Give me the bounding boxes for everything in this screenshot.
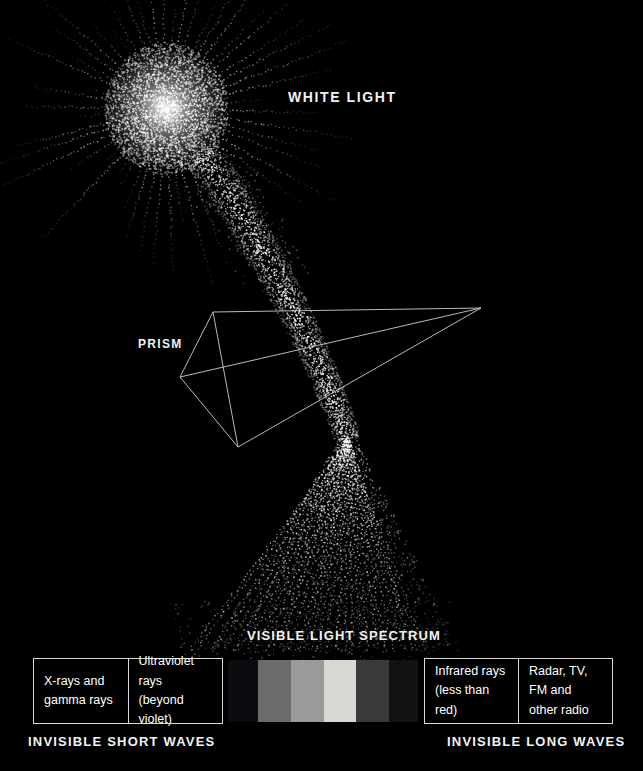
- spectrum-band-yellow: [324, 660, 357, 722]
- box-xray-gamma-label: X-rays and gamma rays: [34, 672, 123, 711]
- spectrum-band-red: [389, 660, 418, 722]
- prism-label: PRISM: [138, 337, 183, 351]
- box-radio-label: Radar, TV, FM and other radio: [519, 662, 599, 720]
- spectrum-band-blue: [258, 660, 291, 722]
- short-wave-box-group: X-rays and gamma rays Ultraviolet rays (…: [33, 658, 223, 724]
- invisible-short-waves-caption: INVISIBLE SHORT WAVES: [28, 734, 215, 749]
- visible-spectrum-strip: [228, 660, 418, 722]
- visible-light-spectrum-label: VISIBLE LIGHT SPECTRUM: [247, 628, 441, 643]
- invisible-long-waves-caption: INVISIBLE LONG WAVES: [447, 734, 625, 749]
- box-infrared[interactable]: Infrared rays (less than red): [425, 659, 518, 723]
- box-radio[interactable]: Radar, TV, FM and other radio: [518, 659, 612, 723]
- spectrum-diagram: WHITE LIGHT PRISM VISIBLE LIGHT SPECTRUM…: [0, 0, 643, 771]
- box-infrared-label: Infrared rays (less than red): [425, 662, 518, 720]
- spectrum-band-orange: [356, 660, 389, 722]
- box-ultraviolet[interactable]: Ultraviolet rays (beyond violet): [128, 659, 223, 723]
- white-light-label: WHITE LIGHT: [288, 89, 397, 105]
- long-wave-box-group: Infrared rays (less than red) Radar, TV,…: [424, 658, 613, 724]
- light-artwork: [0, 0, 643, 771]
- spectrum-band-green: [291, 660, 324, 722]
- box-ultraviolet-label: Ultraviolet rays (beyond violet): [129, 652, 223, 730]
- box-xray-gamma[interactable]: X-rays and gamma rays: [34, 659, 128, 723]
- spectrum-band-violet: [228, 660, 258, 722]
